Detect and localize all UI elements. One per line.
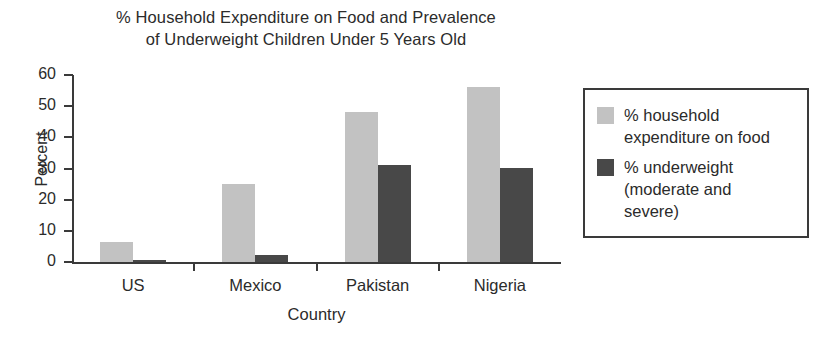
bar-us-series-2 <box>133 260 166 262</box>
bar-mexico-series-1 <box>222 184 255 262</box>
x-tick-label-us: US <box>73 276 193 295</box>
bar-group-container <box>0 0 580 262</box>
legend-label-line: (moderate and <box>624 178 804 200</box>
x-tick-label-pakistan: Pakistan <box>318 276 438 295</box>
legend-swatch-dark-icon <box>597 159 614 176</box>
x-tick-label-mexico: Mexico <box>195 276 315 295</box>
legend-label-underweight: % underweight (moderate and severe) <box>624 156 804 222</box>
legend-entry-underweight: % underweight (moderate and severe) <box>597 156 804 222</box>
legend-label-line: severe) <box>624 200 804 222</box>
x-tick-mark <box>438 262 440 271</box>
x-axis-label: Country <box>72 305 561 324</box>
legend-swatch-light-icon <box>597 107 614 124</box>
legend-label-household-expenditure: % household expenditure on food <box>624 104 804 148</box>
legend-label-line: % underweight <box>624 156 804 178</box>
legend-label-line: expenditure on food <box>624 126 804 148</box>
bar-pakistan-series-2 <box>378 165 411 262</box>
legend-entry-household-expenditure: % household expenditure on food <box>597 104 804 148</box>
bar-mexico-series-2 <box>255 255 288 262</box>
bar-us-series-1 <box>100 242 133 262</box>
plot-area: Percent 0102030405060 USMexicoPakistanNi… <box>0 0 580 344</box>
x-tick-mark <box>316 262 318 271</box>
bar-pakistan-series-1 <box>345 112 378 262</box>
chart-page: % Household Expenditure on Food and Prev… <box>0 0 836 344</box>
chart-legend: % household expenditure on food % underw… <box>583 88 809 238</box>
bar-nigeria-series-2 <box>500 168 533 262</box>
legend-label-line: % household <box>624 104 804 126</box>
x-tick-label-nigeria: Nigeria <box>440 276 560 295</box>
bar-nigeria-series-1 <box>467 87 500 262</box>
x-tick-mark <box>193 262 195 271</box>
